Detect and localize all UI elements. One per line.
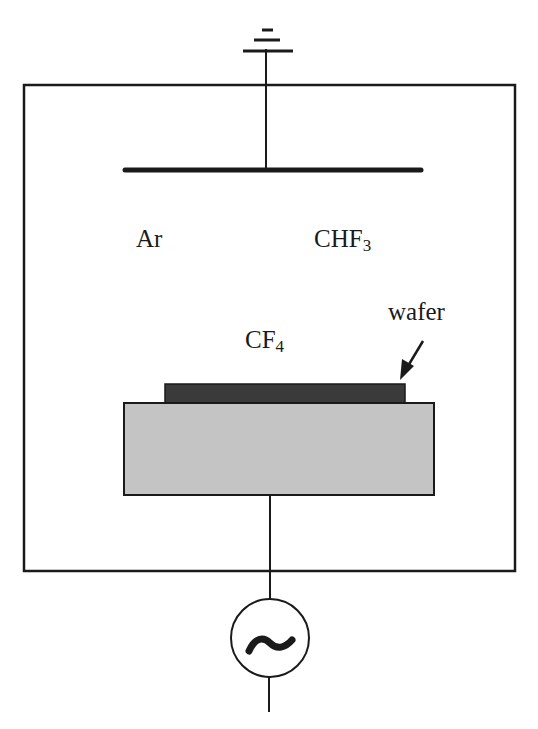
ac-source-icon bbox=[231, 599, 309, 677]
gas-cf4-subscript: 4 bbox=[276, 337, 285, 356]
gas-label-ar: Ar bbox=[136, 226, 162, 251]
gas-chf3-subscript: 3 bbox=[363, 236, 372, 255]
wafer bbox=[165, 384, 405, 403]
gas-label-chf3: CHF3 bbox=[314, 226, 371, 251]
ground-icon bbox=[243, 30, 293, 51]
wafer-label: wafer bbox=[388, 299, 445, 324]
etch-chamber-diagram bbox=[0, 0, 538, 729]
wafer-text: wafer bbox=[388, 298, 445, 325]
gas-cf4-text: CF bbox=[245, 326, 276, 353]
bottom-electrode bbox=[124, 403, 434, 495]
gas-chf3-text: CHF bbox=[314, 225, 363, 252]
gas-label-cf4: CF4 bbox=[245, 327, 284, 352]
gas-ar-text: Ar bbox=[136, 225, 162, 252]
wafer-arrow-icon bbox=[400, 341, 423, 380]
